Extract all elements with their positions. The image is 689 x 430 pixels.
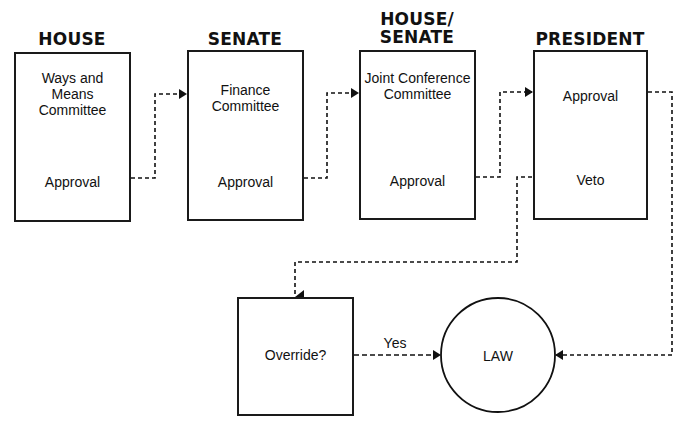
senate-box [187, 50, 304, 221]
override-label: Override? [237, 347, 354, 363]
joint-committee-label: Joint Conference Committee [363, 70, 472, 102]
yes-label: Yes [370, 335, 420, 351]
joint-approval-label: Approval [359, 173, 476, 189]
connector-senate-to-joint [304, 93, 358, 178]
senate-approval-label: Approval [187, 174, 304, 190]
president-box [533, 50, 648, 220]
house-committee-label: Ways and Means Committee [20, 70, 125, 118]
heading-house-senate: HOUSE/ SENATE [372, 10, 462, 46]
heading-house: HOUSE [14, 30, 130, 48]
president-veto-label: Veto [533, 172, 648, 188]
connector-house-to-senate [131, 94, 186, 178]
house-approval-label: Approval [14, 174, 131, 190]
heading-senate: SENATE [187, 30, 303, 48]
connector-joint-to-president [476, 92, 532, 177]
senate-committee-label: Finance Committee [197, 82, 294, 114]
president-approval-label: Approval [533, 88, 648, 104]
law-label: LAW [441, 348, 555, 364]
heading-president: PRESIDENT [530, 30, 650, 48]
